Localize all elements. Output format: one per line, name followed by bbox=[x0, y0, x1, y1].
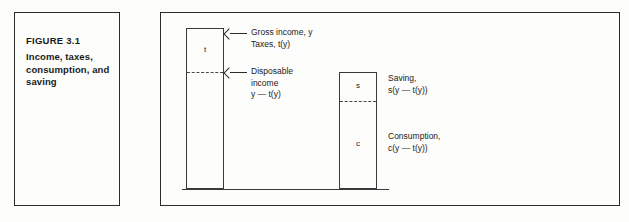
figure-number: FIGURE 3.1 bbox=[26, 35, 118, 47]
disposable-income-callout-text: Disposable income y — t(y) bbox=[247, 66, 293, 101]
gross-income-callout-text: Gross income, y Taxes, t(y) bbox=[247, 27, 312, 50]
saving-segment-label: s bbox=[339, 81, 377, 91]
figure-title: Income, taxes, consumption, and saving bbox=[26, 51, 118, 89]
saving-label: Saving, s(y — t(y)) bbox=[388, 73, 428, 96]
baseline-axis bbox=[182, 189, 389, 190]
gross-income-callout: Gross income, y Taxes, t(y) bbox=[225, 27, 312, 50]
tax-divider-line bbox=[187, 72, 223, 73]
left-arrow-icon bbox=[225, 68, 247, 77]
consumption-label: Consumption, c(y — t(y)) bbox=[388, 131, 440, 154]
consumption-segment-label: c bbox=[339, 139, 377, 149]
diagram-canvas: t s c Gross income, y Taxes, t(y) Dispos… bbox=[161, 13, 619, 205]
left-arrow-icon bbox=[225, 29, 247, 38]
figure-caption-box: FIGURE 3.1 Income, taxes, consumption, a… bbox=[14, 12, 120, 206]
tax-segment-label: t bbox=[186, 45, 224, 55]
figure-page: FIGURE 3.1 Income, taxes, consumption, a… bbox=[0, 0, 629, 222]
figure-caption-text: FIGURE 3.1 Income, taxes, consumption, a… bbox=[26, 35, 118, 89]
disposable-income-callout: Disposable income y — t(y) bbox=[225, 66, 293, 101]
saving-divider-line bbox=[340, 101, 376, 102]
figure-diagram-box: t s c Gross income, y Taxes, t(y) Dispos… bbox=[160, 12, 620, 206]
